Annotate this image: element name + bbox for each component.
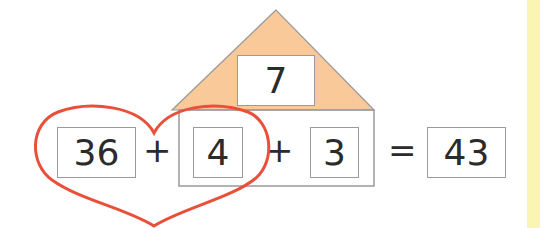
heart-outline-icon bbox=[35, 106, 268, 226]
number-house-diagram: 7 36 + 4 + 3 = 43 bbox=[0, 0, 548, 228]
side-highlight-strip bbox=[527, 0, 540, 228]
heart-layer bbox=[0, 0, 548, 228]
